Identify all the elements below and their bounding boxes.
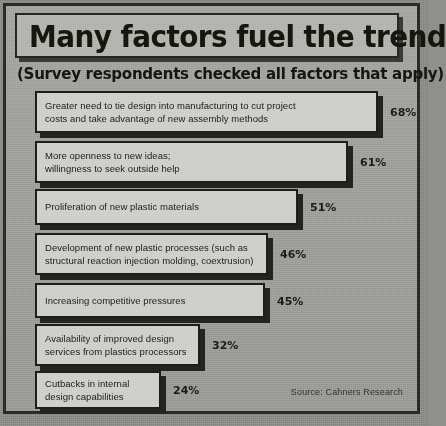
bar-row: Increasing competitive pressures45% [6, 283, 423, 318]
bar-value-label: 46% [280, 248, 306, 261]
bar: Development of new plastic processes (su… [35, 233, 268, 275]
bar-value-label: 51% [310, 201, 336, 214]
bar-category-label: Availability of improved design services… [45, 333, 187, 358]
bar-row: More openness to new ideas; willingness … [6, 141, 423, 183]
bar-value-label: 45% [277, 294, 303, 307]
bar-row: Proliferation of new plastic materials51… [6, 189, 423, 225]
bar: Increasing competitive pressures [35, 283, 265, 318]
bar-category-label: Increasing competitive pressures [45, 294, 185, 307]
bar-category-label: Greater need to tie design into manufact… [45, 100, 296, 125]
bar-value-label: 68% [390, 106, 416, 119]
bar: Proliferation of new plastic materials [35, 189, 298, 225]
bar-value-label: 32% [212, 339, 238, 352]
bar-row: Development of new plastic processes (su… [6, 233, 423, 275]
bar-row: Greater need to tie design into manufact… [6, 91, 423, 133]
figure-frame: Many factors fuel the trend (Survey resp… [3, 3, 420, 414]
bar: Greater need to tie design into manufact… [35, 91, 378, 133]
bar-category-label: Cutbacks in internal design capabilities [45, 378, 129, 403]
bar-value-label: 61% [360, 156, 386, 169]
bar-row: Availability of improved design services… [6, 324, 423, 366]
source-note: Source: Cahners Research [291, 387, 403, 397]
bar-category-label: More openness to new ideas; willingness … [45, 150, 180, 175]
bar-category-label: Development of new plastic processes (su… [45, 242, 253, 267]
bar: Cutbacks in internal design capabilities [35, 371, 161, 409]
page-title: Many factors fuel the trend [29, 17, 446, 57]
bar: More openness to new ideas; willingness … [35, 141, 348, 183]
bar-value-label: 24% [173, 384, 199, 397]
bar-category-label: Proliferation of new plastic materials [45, 201, 199, 214]
title-box: Many factors fuel the trend [15, 13, 399, 58]
chart-subtitle: (Survey respondents checked all factors … [17, 64, 444, 84]
bar: Availability of improved design services… [35, 324, 200, 366]
